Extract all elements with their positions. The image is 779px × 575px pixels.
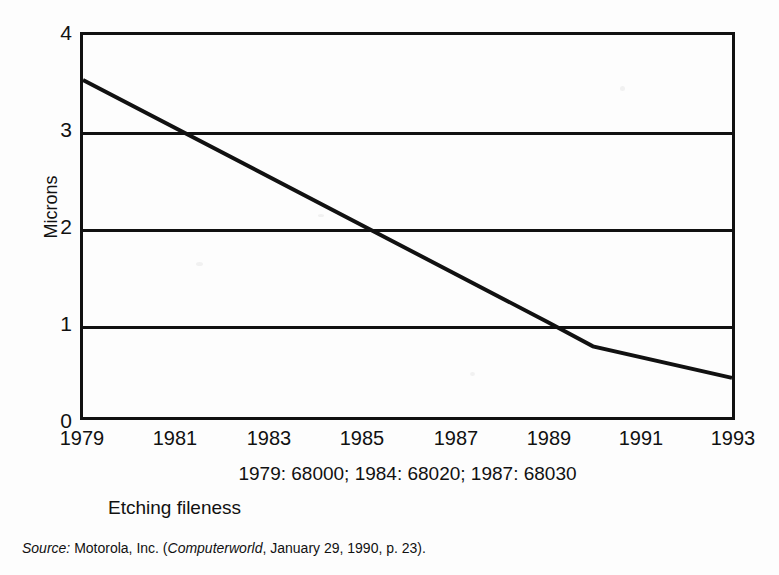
y-tick-label-3: 3 [46,119,72,140]
x-tick-label-1985: 1985 [327,428,397,448]
source-rest: , January 29, 1990, p. 23). [262,540,425,556]
x-tick-label-1987: 1987 [421,428,491,448]
x-tick-label-1989: 1989 [514,428,584,448]
source-label: Source: [22,540,70,556]
source-publisher: Motorola, Inc. ( [74,540,167,556]
source-publication: Computerworld [168,540,263,556]
x-tick-label-1981: 1981 [140,428,210,448]
chart-caption: Etching fileness [108,498,241,519]
x-tick-label-1979: 1979 [47,428,117,448]
x-tick-label-1991: 1991 [606,428,676,448]
y-axis-title: Microns [42,142,60,272]
series-svg [83,35,732,417]
y-tick-label-1: 1 [46,313,72,334]
data-line-etching-fileness [83,80,732,378]
chart-annotation: 1979: 68000; 1984: 68020; 1987: 68030 [80,464,735,485]
chart-figure: 4 3 2 1 0 Microns 1979 1981 1983 1985 19… [0,0,779,575]
x-tick-label-1993: 1993 [698,428,768,448]
x-tick-label-1983: 1983 [234,428,304,448]
source-line: Source: Motorola, Inc. (Computerworld, J… [22,540,426,557]
y-tick-label-4: 4 [46,22,72,43]
plot-area [80,32,735,420]
